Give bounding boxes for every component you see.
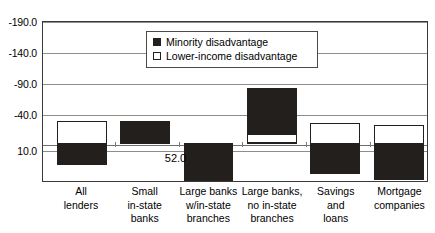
x-axis-label-line: branches — [179, 212, 237, 226]
bar-value-label-52: 52.0 — [165, 152, 186, 164]
x-axis-label-line: loans — [317, 212, 354, 226]
gridline — [43, 22, 427, 23]
y-axis-tick-label: -190.0 — [8, 16, 37, 28]
x-axis-category-label-mortgage-companies: Mortgage companies — [374, 185, 425, 212]
legend-item-minority-disadvantage: Minority disadvantage — [153, 35, 311, 49]
bar-minority-mortgage-companies — [374, 143, 424, 180]
x-axis-label-line: Small — [127, 185, 161, 199]
bar-minority-small-in-state-banks — [120, 121, 170, 144]
x-axis-label-line: Large banks, — [242, 185, 303, 199]
y-axis-tick-mark — [42, 22, 43, 23]
filled-square-icon — [153, 38, 161, 46]
gridline — [43, 115, 427, 116]
x-axis-label-line: branches — [242, 212, 303, 226]
bar-lower-income-mortgage-companies — [374, 125, 424, 144]
y-axis-tick-mark — [42, 53, 43, 54]
bar-lower-income-savings-and-loans — [310, 123, 360, 144]
x-axis-tick-mark — [115, 142, 116, 147]
x-axis-tick-mark — [242, 142, 243, 147]
bar-minority-savings-and-loans — [310, 143, 360, 174]
x-axis-category-label-savings-and-loans: Savings and loans — [317, 185, 354, 226]
y-axis: -190.0 -140.0 -90.0 -40.0 10.0 — [0, 0, 37, 233]
x-axis-label-line: banks — [127, 212, 161, 226]
x-axis-label-line: All — [64, 185, 98, 199]
x-axis-label-line: w/in-state — [179, 199, 237, 213]
x-axis-label-line: Savings — [317, 185, 354, 199]
y-axis-tick-label: -140.0 — [8, 47, 37, 59]
legend: Minority disadvantage Lower-income disad… — [146, 31, 318, 68]
bar-chart: -190.0 -140.0 -90.0 -40.0 10.0 — [0, 0, 435, 233]
x-axis-label-line: Mortgage — [374, 185, 425, 199]
y-axis-tick-mark — [42, 115, 43, 116]
x-axis-tick-mark — [306, 142, 307, 147]
x-axis-label-line: companies — [374, 199, 425, 213]
x-axis-label-line: Large banks — [179, 185, 237, 199]
x-axis-label-line: in-state — [127, 199, 161, 213]
gridline — [43, 84, 427, 85]
x-axis: All lenders Small in-state banks Large b… — [42, 185, 428, 233]
legend-item-lower-income-disadvantage: Lower-income disadvantage — [153, 49, 311, 63]
bar-lower-income-all-lenders — [57, 121, 107, 146]
x-axis-category-label-large-banks-with-in-state-branches: Large banks w/in-state branches — [179, 185, 237, 226]
x-axis-category-label-small-in-state-banks: Small in-state banks — [127, 185, 161, 226]
bar-lower-income-large-banks-no-in-state-branches — [247, 134, 297, 143]
bar-minority-all-lenders — [57, 143, 107, 164]
hollow-square-icon — [153, 52, 161, 60]
y-axis-tick-mark — [42, 84, 43, 85]
y-axis-tick-label: 10.0 — [17, 145, 37, 157]
x-axis-tick-mark — [370, 142, 371, 147]
legend-label: Lower-income disadvantage — [166, 50, 297, 62]
y-axis-tick-label: -40.0 — [14, 109, 37, 121]
bar-minority-large-banks-with-in-state-branches — [184, 143, 234, 182]
y-axis-tick-mark — [42, 151, 43, 152]
y-axis-tick-label: -90.0 — [14, 78, 37, 90]
x-axis-tick-mark — [179, 142, 180, 147]
x-axis-label-line: lenders — [64, 199, 98, 213]
legend-label: Minority disadvantage — [166, 36, 268, 48]
x-axis-category-label-large-banks-no-in-state-branches: Large banks, no in-state branches — [242, 185, 303, 226]
x-axis-label-line: and — [317, 199, 354, 213]
x-axis-label-line: no in-state — [242, 199, 303, 213]
x-axis-category-label-all-lenders: All lenders — [64, 185, 98, 212]
